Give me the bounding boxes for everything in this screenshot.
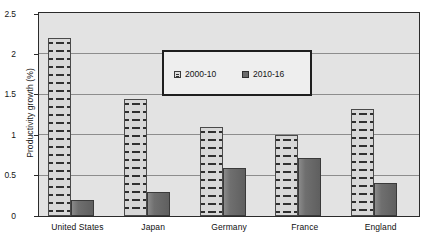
legend-entry: 2000-10	[174, 69, 216, 79]
y-axis-tick-label: 1	[0, 130, 16, 140]
chart-legend: 2000-10 2010-16	[162, 50, 312, 96]
bar-japan-2010-16	[147, 192, 170, 216]
bar-france-2000-10	[275, 135, 298, 216]
y-axis-tick-label: 0.5	[0, 170, 16, 180]
bar-england-2000-10	[351, 109, 374, 216]
y-axis-title: Productivity growth (%)	[25, 33, 35, 193]
plot-area	[38, 12, 420, 217]
y-axis-tick-label: 1.5	[0, 89, 16, 99]
bar-france-2010-16	[298, 158, 321, 216]
bar-united-states-2010-16	[71, 200, 94, 216]
y-axis-tick-label: 2	[0, 49, 16, 59]
x-axis-tick-label: England	[336, 222, 426, 232]
legend-entry: 2010-16	[242, 69, 284, 79]
bar-japan-2000-10	[124, 99, 147, 216]
y-axis-tick-label: 0	[0, 211, 16, 221]
bar-chart: Productivity growth (%) 00.511.522.5 200…	[0, 0, 434, 249]
legend-swatch-solid-icon	[242, 71, 249, 78]
legend-label: 2010-16	[253, 69, 284, 79]
bar-germany-2000-10	[200, 127, 223, 216]
bar-germany-2010-16	[223, 168, 246, 216]
legend-label: 2000-10	[185, 69, 216, 79]
bar-united-states-2000-10	[48, 38, 71, 216]
bar-england-2010-16	[374, 183, 397, 216]
cropped-caption	[0, 240, 434, 249]
y-axis-tick-label: 2.5	[0, 9, 16, 19]
legend-swatch-hatched-icon	[174, 71, 181, 78]
